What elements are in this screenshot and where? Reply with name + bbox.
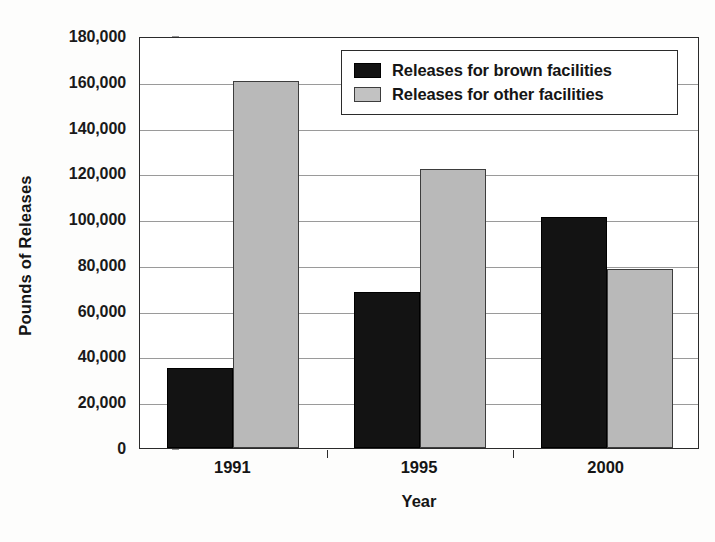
legend-entry: Releases for other facilities — [354, 82, 667, 106]
x-axis-title: Year — [139, 492, 699, 511]
y-axis-tick-label: 180,000 — [69, 28, 126, 46]
y-axis-tick-label: 80,000 — [78, 257, 126, 275]
y-axis-tick-label: 100,000 — [69, 211, 126, 229]
legend-entry: Releases for brown facilities — [354, 58, 667, 82]
bar-2000-series-2 — [607, 269, 673, 448]
legend-label: Releases for other facilities — [392, 85, 604, 104]
x-axis-tick-label-2000: 2000 — [587, 458, 624, 477]
bar-1995-series-1 — [354, 292, 420, 448]
y-axis-tick-label: 20,000 — [78, 394, 126, 412]
y-axis-tick-labels: 180,000160,000140,000120,000100,00080,00… — [40, 37, 132, 449]
x-axis-tick-label-1991: 1991 — [214, 458, 251, 477]
bar-chart: Pounds of Releases 180,000160,000140,000… — [0, 0, 715, 542]
legend-swatch-icon — [354, 63, 381, 78]
y-axis-title-text: Pounds of Releases — [16, 175, 35, 335]
y-axis-title: Pounds of Releases — [8, 140, 42, 370]
x-axis-tick-label-1995: 1995 — [401, 458, 438, 477]
y-axis-tick-label: 120,000 — [69, 165, 126, 183]
x-axis-tick-mark — [327, 450, 328, 458]
legend-swatch-icon — [354, 87, 381, 102]
x-axis-tick-mark — [513, 450, 514, 458]
y-axis-tick-label: 60,000 — [78, 303, 126, 321]
bar-1995-series-2 — [420, 169, 486, 448]
bar-1991-series-1 — [167, 368, 233, 448]
y-axis-tick-label: 140,000 — [69, 120, 126, 138]
y-axis-tick-label: 40,000 — [78, 348, 126, 366]
legend-label: Releases for brown facilities — [392, 61, 612, 80]
bar-1991-series-2 — [233, 81, 299, 448]
x-axis-tick-labels: 199119952000 — [139, 458, 699, 482]
y-axis-tick-label: 0 — [117, 440, 126, 458]
y-axis-tick-label: 160,000 — [69, 74, 126, 92]
chart-legend: Releases for brown facilitiesReleases fo… — [341, 50, 678, 115]
bar-2000-series-1 — [541, 217, 607, 448]
